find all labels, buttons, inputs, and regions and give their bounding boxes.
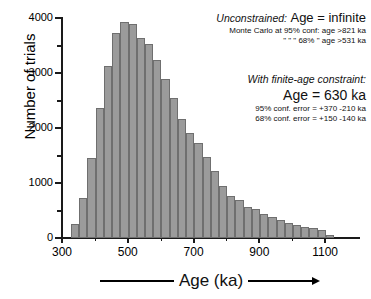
y-axis-title: Number of trials: [21, 12, 38, 162]
histogram-bar: [211, 171, 219, 238]
finite-row-0: 95% conf. error = +370 -210 ka: [178, 104, 366, 114]
histogram-bar: [203, 157, 211, 238]
finite-value: Age = 630 ka: [178, 86, 366, 104]
histogram-bar: [318, 230, 326, 238]
arrow-line-left: [100, 280, 174, 282]
unconstrained-label: Unconstrained:: [216, 12, 287, 24]
histogram-bar: [79, 198, 87, 238]
x-tick-label: 500: [105, 245, 151, 259]
histogram-bar: [96, 108, 104, 238]
histogram-bars: [62, 18, 358, 238]
unconstrained-headline: Unconstrained: Age = infinite: [178, 10, 366, 26]
y-tick-label: 3000: [9, 66, 53, 78]
histogram-bar: [153, 60, 161, 238]
unconstrained-row-1-left: " " " 68% ": [283, 36, 319, 45]
y-tick-label: 4000: [9, 11, 53, 23]
x-axis-arrow-title: Age (ka): [62, 268, 358, 294]
histogram-bar: [235, 200, 243, 238]
unconstrained-row-1-right: age >531 ka: [322, 36, 366, 45]
x-axis-title: Age (ka): [174, 271, 248, 291]
histogram-bar: [260, 214, 268, 238]
unconstrained-row-0-right: age >821 ka: [322, 26, 366, 35]
histogram-bar: [104, 66, 112, 238]
unconstrained-value: Age = infinite: [290, 10, 366, 25]
y-tick-label: 0: [9, 231, 53, 243]
histogram-bar: [244, 207, 252, 238]
annotation-unconstrained: Unconstrained: Age = infinite Monte Carl…: [178, 10, 366, 46]
histogram-bar: [326, 235, 334, 238]
x-tick-label: 300: [39, 245, 85, 259]
y-tick-label: 2000: [9, 121, 53, 133]
histogram-bar: [301, 227, 309, 238]
histogram-bar: [71, 224, 79, 238]
x-tick-label: 1100: [302, 245, 348, 259]
arrow-head-icon: [312, 277, 320, 285]
annotation-finite-age: With finite-age constraint: Age = 630 ka…: [178, 72, 366, 124]
unconstrained-row-0: Monte Carlo at 95% conf: age >821 ka: [178, 26, 366, 36]
unconstrained-row-0-left: Monte Carlo at 95% conf:: [229, 26, 319, 35]
histogram-bar: [186, 133, 194, 238]
histogram-bar: [87, 158, 95, 238]
histogram-bar: [145, 44, 153, 238]
histogram-bar: [309, 228, 317, 238]
histogram-bar: [293, 225, 301, 238]
x-tick-label: 900: [236, 245, 282, 259]
unconstrained-row-1: " " " 68% " age >531 ka: [178, 36, 366, 46]
plot-area: [62, 18, 358, 238]
histogram-bar: [277, 220, 285, 238]
histogram-bar: [178, 119, 186, 238]
histogram-bar: [170, 98, 178, 238]
histogram-bar: [285, 223, 293, 238]
finite-title: With finite-age constraint:: [178, 72, 366, 86]
histogram-bar: [161, 79, 169, 239]
finite-row-1: 68% conf. error = +150 -140 ka: [178, 114, 366, 124]
histogram-bar: [227, 196, 235, 238]
histogram-figure: Number of trials 01000200030004000 30050…: [0, 0, 371, 299]
histogram-bar: [129, 24, 137, 238]
arrow-line-right: [248, 280, 312, 282]
histogram-bar: [112, 33, 120, 238]
histogram-bar: [268, 217, 276, 238]
histogram-bar: [219, 186, 227, 238]
histogram-bar: [120, 22, 128, 238]
histogram-bar: [137, 38, 145, 238]
histogram-bar: [194, 143, 202, 238]
x-tick-label: 700: [171, 245, 217, 259]
y-tick-label: 1000: [9, 176, 53, 188]
histogram-bar: [252, 209, 260, 238]
